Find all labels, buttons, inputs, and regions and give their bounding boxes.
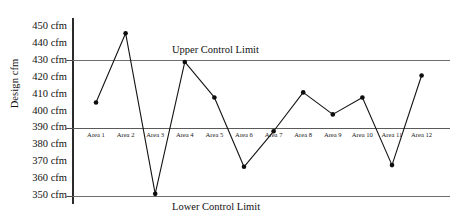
y-tick-label: 360 cfm (12, 173, 67, 184)
x-category-label: Area 8 (294, 131, 312, 138)
control-chart: Design cfm 350 cfm360 cfm370 cfm380 cfm3… (0, 0, 459, 223)
data-point-marker (419, 73, 424, 78)
axis-tick-mark (67, 60, 73, 61)
axis-tick-mark (67, 196, 73, 197)
series-line (96, 33, 422, 194)
data-point-marker (242, 165, 247, 170)
data-point-marker (153, 192, 158, 197)
data-point-marker (390, 163, 395, 168)
y-tick-label: 420 cfm (12, 72, 67, 83)
x-category-label: Area 2 (117, 131, 135, 138)
data-point-marker (183, 60, 188, 65)
x-category-label: Area 12 (411, 131, 432, 138)
y-tick-label: 450 cfm (12, 21, 67, 32)
y-tick-label: 390 cfm (12, 122, 67, 133)
y-axis-tick-labels: 350 cfm360 cfm370 cfm380 cfm390 cfm400 c… (10, 0, 67, 223)
y-tick-label: 370 cfm (12, 156, 67, 167)
plot-area: Upper Control Limit Lower Control Limit … (72, 18, 450, 204)
data-point-marker (94, 100, 99, 105)
y-tick-label: 440 cfm (12, 38, 67, 49)
data-point-marker (123, 31, 128, 36)
x-category-label: Area 3 (146, 131, 164, 138)
data-point-marker (331, 112, 336, 117)
x-category-label: Area 10 (352, 131, 373, 138)
x-category-label: Area 6 (235, 131, 253, 138)
y-tick-label: 410 cfm (12, 89, 67, 100)
data-series (72, 18, 450, 204)
x-category-label: Area 7 (265, 131, 283, 138)
data-point-marker (212, 95, 217, 100)
x-category-label: Area 1 (87, 131, 105, 138)
y-tick-label: 430 cfm (12, 55, 67, 66)
x-category-label: Area 5 (206, 131, 224, 138)
x-category-label: Area 4 (176, 131, 194, 138)
x-category-label: Area 9 (324, 131, 342, 138)
y-tick-label: 350 cfm (12, 190, 67, 201)
data-point-marker (301, 90, 306, 95)
y-tick-label: 380 cfm (12, 139, 67, 150)
axis-tick-mark (67, 128, 73, 129)
x-category-label: Area 11 (382, 131, 403, 138)
y-tick-label: 400 cfm (12, 106, 67, 117)
data-point-marker (360, 95, 365, 100)
